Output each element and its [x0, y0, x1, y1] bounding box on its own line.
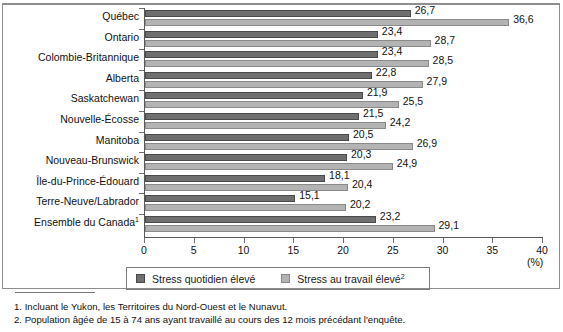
x-tick — [144, 238, 145, 243]
bar-value-label: 24,9 — [397, 157, 417, 169]
bar-value-label: 36,6 — [513, 13, 533, 25]
bar-value-label: 25,5 — [403, 95, 423, 107]
category-label: Manitoba — [96, 135, 144, 146]
category-label: Nouveau-Brunswick — [46, 155, 144, 166]
bar-stress-quotidien — [145, 51, 378, 58]
x-tick-label: 10 — [238, 244, 250, 256]
legend-label: Stress au travail élevé2 — [297, 273, 404, 285]
x-tick-label: 15 — [287, 244, 299, 256]
bar-stress-quotidien — [145, 134, 349, 141]
bar-stress-quotidien — [145, 31, 378, 38]
category-label-text: Québec — [102, 10, 139, 22]
category-label-text: Saskatchewan — [71, 92, 139, 104]
bar-value-label: 23,4 — [382, 45, 402, 57]
footnote-divider — [15, 292, 95, 293]
bar-stress-quotidien — [145, 72, 372, 79]
chart-figure: QuébecOntarioColombie-BritanniqueAlberta… — [0, 0, 563, 332]
bar-value-label: 29,1 — [439, 219, 459, 231]
bar-value-label: 24,2 — [390, 116, 410, 128]
category-label-text: Terre-Neuve/Labrador — [36, 195, 139, 207]
y-tick — [139, 214, 144, 215]
y-tick — [139, 29, 144, 30]
legend-swatch-icon — [136, 274, 145, 283]
legend-swatch-icon — [281, 274, 290, 283]
bar-value-label: 20,4 — [352, 178, 372, 190]
legend-item[interactable]: Stress au travail élevé2 — [281, 273, 404, 285]
category-label: Saskatchewan — [71, 93, 144, 104]
bar-value-label: 20,5 — [353, 128, 373, 140]
y-tick — [139, 70, 144, 71]
bar-stress-travail — [145, 122, 386, 129]
bar-value-label: 23,2 — [380, 210, 400, 222]
footnote: 1. Incluant le Yukon, les Territoires du… — [14, 300, 554, 313]
x-tick — [343, 238, 344, 243]
bar-stress-quotidien — [145, 92, 363, 99]
y-tick — [139, 193, 144, 194]
category-label-text: Manitoba — [96, 134, 139, 146]
bar-stress-quotidien — [145, 195, 295, 202]
y-tick — [139, 111, 144, 112]
x-tick-label: 0 — [141, 244, 147, 256]
category-footnote-marker: 1 — [135, 216, 139, 223]
category-label: Nouvelle-Écosse — [60, 114, 144, 125]
y-tick — [139, 90, 144, 91]
bar-value-label: 20,2 — [350, 198, 370, 210]
x-tick — [293, 238, 294, 243]
category-label: Québec — [102, 11, 144, 22]
bar-value-label: 28,7 — [435, 34, 455, 46]
x-tick — [244, 238, 245, 243]
bar-value-label: 28,5 — [433, 54, 453, 66]
footnote: 2. Population âgée de 15 à 74 ans ayant … — [14, 313, 554, 326]
x-tick-label: 40 — [536, 244, 548, 256]
x-axis-unit-label: (%) — [527, 256, 543, 268]
bar-stress-travail — [145, 204, 346, 211]
bar-stress-quotidien — [145, 216, 376, 223]
x-tick — [492, 238, 493, 243]
category-label-text: Colombie-Britannique — [38, 51, 139, 63]
x-tick — [542, 238, 543, 243]
bar-value-label: 21,5 — [363, 107, 383, 119]
legend-item[interactable]: Stress quotidien élevé — [136, 273, 255, 285]
category-label: Terre-Neuve/Labrador — [36, 196, 144, 207]
legend-footnote-marker: 2 — [401, 272, 405, 279]
legend-label-text: Stress quotidien élevé — [152, 273, 255, 285]
category-label-text: Nouvelle-Écosse — [60, 113, 139, 125]
category-label: Alberta — [106, 73, 144, 84]
y-tick — [139, 132, 144, 133]
bar-stress-quotidien — [145, 10, 411, 17]
bar-value-label: 22,8 — [376, 66, 396, 78]
x-tick-label: 35 — [486, 244, 498, 256]
x-tick-label: 25 — [387, 244, 399, 256]
x-tick — [393, 238, 394, 243]
category-label-text: Île-du-Prince-Édouard — [36, 175, 139, 187]
legend-label-text: Stress au travail élevé — [297, 273, 400, 285]
category-label: Île-du-Prince-Édouard — [36, 176, 144, 187]
category-label: Ensemble du Canada1 — [34, 217, 144, 228]
category-label-text: Nouveau-Brunswick — [46, 154, 139, 166]
bar-stress-quotidien — [145, 154, 347, 161]
bar-stress-quotidien — [145, 113, 359, 120]
bar-stress-travail — [145, 163, 393, 170]
legend-label: Stress quotidien élevé — [152, 273, 255, 285]
plot-area: QuébecOntarioColombie-BritanniqueAlberta… — [0, 0, 563, 250]
y-tick — [139, 49, 144, 50]
x-tick-label: 5 — [191, 244, 197, 256]
bar-value-label: 18,1 — [329, 169, 349, 181]
y-tick — [139, 8, 144, 9]
chart-legend: Stress quotidien élevéStress au travail … — [126, 267, 430, 290]
bar-value-label: 15,1 — [299, 189, 319, 201]
bar-stress-travail — [145, 225, 435, 232]
bar-stress-travail — [145, 101, 399, 108]
bar-value-label: 20,3 — [351, 148, 371, 160]
bar-value-label: 21,9 — [367, 86, 387, 98]
x-tick-label: 20 — [337, 244, 349, 256]
category-label: Colombie-Britannique — [38, 52, 144, 63]
bar-value-label: 26,7 — [415, 4, 435, 16]
x-tick-label: 30 — [437, 244, 449, 256]
category-label-text: Ontario — [105, 31, 139, 43]
bar-stress-travail — [145, 19, 509, 26]
y-tick — [139, 173, 144, 174]
x-tick — [443, 238, 444, 243]
footnote-group: 1. Incluant le Yukon, les Territoires du… — [14, 300, 554, 326]
bar-value-label: 27,9 — [427, 75, 447, 87]
